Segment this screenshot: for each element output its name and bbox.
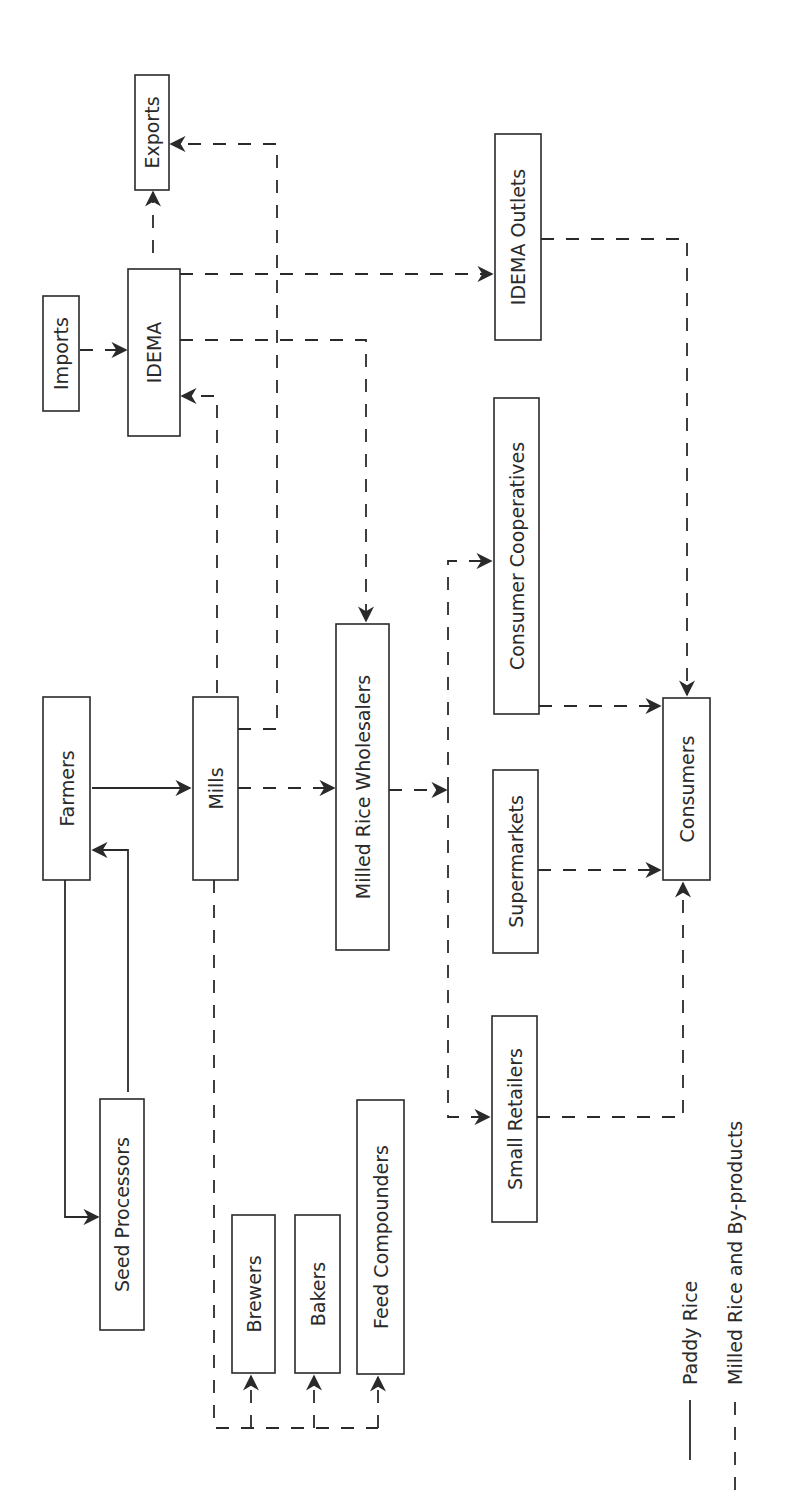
node-label: Seed Processors [111,1137,133,1292]
edge-milled-rice-wholesalers-to-consumer-cooperatives [448,561,491,790]
node-seed-processors: Seed Processors [100,1099,144,1330]
edge-mills-to-exports [171,144,277,729]
node-bakers: Bakers [295,1215,340,1373]
legend-label: Paddy Rice [679,1281,701,1385]
nodes-layer: ExportsImportsIDEMAIDEMA OutletsConsumer… [43,75,710,1374]
edge-small-retailers-to-consumers [537,883,683,1117]
edge-mills-to-idema [182,396,217,693]
edge-seed-processors-to-farmers [93,850,128,1092]
node-label: Brewers [243,1255,265,1332]
node-label: Feed Compounders [370,1145,392,1329]
node-idema-outlets: IDEMA Outlets [495,134,541,340]
node-label: Consumers [676,736,698,843]
node-label: Imports [50,317,72,390]
node-feed-compounders: Feed Compounders [357,1100,404,1374]
legend-label: Milled Rice and By-products [724,1121,746,1385]
legend-item-milled: Milled Rice and By-products [724,1121,746,1490]
node-label: IDEMA [143,322,165,384]
node-consumers: Consumers [663,698,710,880]
node-label: Bakers [307,1262,329,1326]
node-label: Consumer Cooperatives [506,442,528,670]
node-farmers: Farmers [43,697,90,880]
node-label: Supermarkets [505,795,527,928]
node-label: Farmers [56,750,78,826]
node-label: Exports [141,96,163,168]
node-exports: Exports [135,75,169,190]
node-consumer-cooperatives: Consumer Cooperatives [494,398,539,714]
node-idema: IDEMA [128,269,180,436]
node-milled-rice-wholesalers: Milled Rice Wholesalers [336,624,389,950]
legend: Paddy RiceMilled Rice and By-products [679,1121,746,1490]
edge-farmers-to-seed-processors [65,880,98,1217]
edge-milled-rice-wholesalers-to-small-retailers [448,790,489,1117]
legend-item-paddy: Paddy Rice [679,1281,701,1460]
node-imports: Imports [43,296,79,411]
node-label: Small Retailers [504,1048,526,1190]
node-label: Mills [205,767,227,809]
edge-idema-outlets-to-consumers [541,239,687,695]
node-supermarkets: Supermarkets [493,770,538,953]
node-mills: Mills [193,697,238,880]
node-label: Milled Rice Wholesalers [352,675,374,899]
node-brewers: Brewers [232,1215,275,1373]
node-label: IDEMA Outlets [507,169,529,305]
node-small-retailers: Small Retailers [492,1016,537,1222]
rice-marketing-flow-diagram: ExportsImportsIDEMAIDEMA OutletsConsumer… [0,0,800,1502]
edge-idema-to-milled-rice-wholesalers [180,340,366,621]
